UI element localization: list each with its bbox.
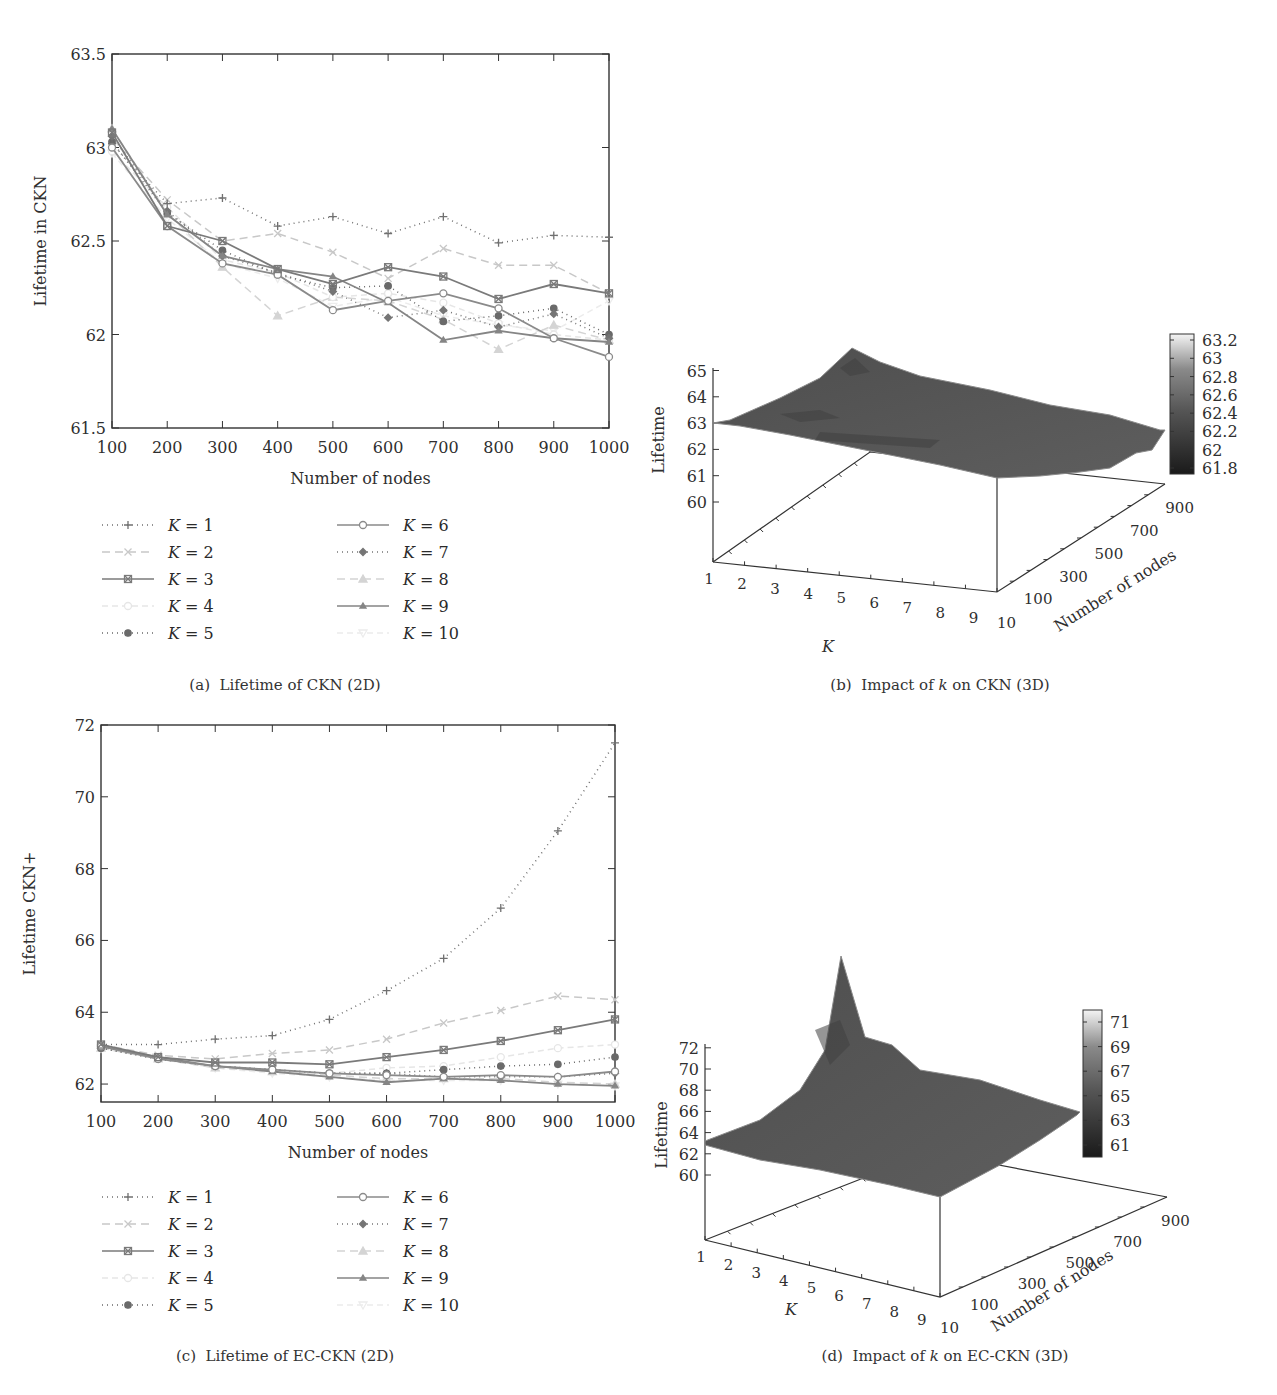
series-k-2 [109,135,613,297]
legend-label: K = 3 [168,570,214,589]
data-point-marker [554,1073,561,1080]
legend-label: K = 10 [403,1296,459,1315]
x-tick-label: 700 [428,438,459,457]
colorbar-tick-label: 62.4 [1202,404,1238,423]
data-point-marker [385,275,392,282]
x-tick-label: 1000 [589,438,630,457]
data-point-marker [274,222,282,230]
colorbar-tick-label: 65 [1110,1087,1130,1106]
x-axis-label: Number of nodes [288,1143,428,1162]
k-tick-label: 6 [834,1287,844,1305]
legend-item-k-1: K = 1 [98,514,214,536]
x-tick-label: 800 [483,438,514,457]
legend-marker-icon [125,1275,132,1282]
k-tick-label: 9 [969,609,979,627]
nodes-tick-label: 500 [1095,545,1124,563]
k-axis-label: K [784,1300,798,1319]
data-point-marker [384,230,392,238]
x-axis-label: Number of nodes [290,469,430,488]
data-point-marker [605,233,613,241]
legend-marker-icon [124,521,132,529]
nodes-tick-label: 900 [1161,1212,1190,1230]
data-point-marker [550,321,558,328]
y-tick-label: 61.5 [70,419,106,438]
x-tick-label: 400 [262,438,293,457]
colorbar-gradient [1083,1010,1102,1157]
k-tick-label: 4 [779,1272,789,1290]
x-tick-label: 800 [486,1112,517,1131]
colorbar-tick-label: 63 [1110,1111,1130,1130]
data-point-marker [329,249,336,256]
data-point-marker [385,297,392,304]
data-point-marker [385,290,392,297]
z-tick-label: 62 [687,440,707,459]
series-k-8 [108,125,613,353]
x-tick-label: 300 [200,1112,231,1131]
x-tick-label: 900 [543,1112,574,1131]
data-point-marker [439,213,447,221]
series-k-9 [109,126,612,344]
y-axis-label: Lifetime in CKN [31,175,50,306]
x-tick-label: 200 [143,1112,174,1131]
legend-marker-icon [125,603,132,610]
k-tick-label: 1 [704,570,714,588]
z-tick-label: 72 [679,1039,699,1058]
legend-label: K = 7 [403,543,449,562]
legend-item-k-5: K = 5 [98,622,214,644]
nodes-tick-label: 100 [970,1296,999,1314]
x-tick-label: 600 [371,1112,402,1131]
legend-label: K = 2 [168,1215,214,1234]
data-point-marker [440,1066,446,1072]
chart-b-impact-k-ckn-3d: 12345678910K100300500700900Number of nod… [640,290,1277,670]
data-point-marker [329,307,336,314]
x-tick-label: 600 [373,438,404,457]
data-point-marker [440,290,447,297]
k-tick-label: 9 [917,1311,927,1329]
y-tick-label: 62 [75,1075,95,1094]
series-line [112,129,609,342]
data-point-marker [495,239,503,247]
z-tick-label: 64 [687,388,707,407]
colorbar: 63.26362.862.662.462.26261.8 [1170,331,1238,478]
y-tick-label: 72 [75,716,95,735]
legend-swatch-icon [333,1189,393,1205]
axes: 1002003004005006007008009001000626466687… [20,716,635,1162]
nodes-tick-label: 100 [1024,590,1053,608]
legend-label: K = 2 [168,543,214,562]
colorbar-tick-label: 67 [1110,1062,1130,1081]
k-tick-label: 4 [803,585,813,603]
legend-marker-icon [360,1275,366,1280]
legend-marker-icon [125,1302,131,1308]
legend-label: K = 5 [168,624,214,643]
data-point-marker [498,1063,504,1069]
legend-marker-icon [124,1193,132,1201]
data-point-marker [550,335,557,342]
nodes-tick-label: 300 [1059,568,1088,586]
legend-label: K = 7 [403,1215,449,1234]
data-point-marker [555,1061,561,1067]
k-tick-label: 2 [737,575,747,593]
k-tick-label: 8 [936,604,946,622]
series-line [112,136,609,338]
chart-b-caption: (b) Impact of k on CKN (3D) [790,676,1090,694]
y-tick-label: 66 [75,931,95,950]
series-k-2 [98,993,619,1063]
legend-item-k-7: K = 7 [333,1213,449,1235]
k-tick-label: 7 [903,599,913,617]
colorbar: 716967656361 [1083,1010,1130,1157]
data-point-marker [612,1054,618,1060]
chart-a-legend: K = 1K = 2K = 3K = 4K = 5K = 6K = 7K = 8… [98,514,498,644]
series-k-6 [109,144,613,360]
legend-label: K = 6 [403,516,449,535]
y-axis-label: Lifetime CKN+ [20,851,39,975]
legend-label: K = 5 [168,1296,214,1315]
legend-item-k-6: K = 6 [333,514,449,536]
chart-c-legend: K = 1K = 2K = 3K = 4K = 5K = 6K = 7K = 8… [98,1186,498,1316]
chart-c-caption: (c) Lifetime of EC-CKN (2D) [120,1347,450,1365]
colorbar-tick-label: 63.2 [1202,331,1238,350]
legend-swatch-icon [333,571,393,587]
legend-item-k-10: K = 10 [333,1294,459,1316]
legend-item-k-9: K = 9 [333,1267,449,1289]
colorbar-tick-label: 62.2 [1202,422,1238,441]
series-k-1 [97,739,619,1049]
